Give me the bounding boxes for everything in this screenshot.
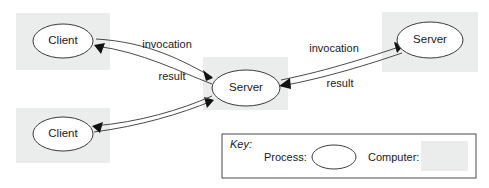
edge-line-result-server-to-client xyxy=(96,46,212,84)
key-computer-label: Computer: xyxy=(368,151,419,163)
diagram-canvas: Client Client Server Server invocation r… xyxy=(0,0,489,188)
edge-label-invocation-right: invocation xyxy=(309,42,359,54)
edge-label-result-right: result xyxy=(327,77,354,89)
key-title: Key: xyxy=(230,138,252,150)
key-process-ellipse-icon xyxy=(312,145,356,169)
key-process-label: Process: xyxy=(264,151,307,163)
edge-label-result-left: result xyxy=(159,70,186,82)
process-label-server-center: Server xyxy=(229,81,263,93)
process-label-server-top-right: Server xyxy=(413,33,447,45)
edge-label-invocation-left: invocation xyxy=(142,38,192,50)
edge-line-result-server-to-client2 xyxy=(94,96,212,126)
diagram-svg: Client Client Server Server invocation r… xyxy=(0,0,489,188)
process-label-client-bottom-left: Client xyxy=(48,127,78,139)
process-label-client-top-left: Client xyxy=(48,34,78,46)
key-computer-swatch-icon xyxy=(421,141,468,171)
